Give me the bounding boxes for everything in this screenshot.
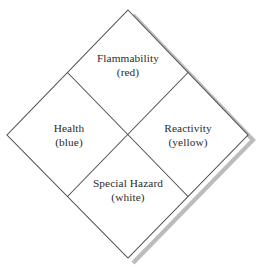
quadrant-label-flammability: Flammability (red) — [97, 52, 159, 79]
quadrant-label-health: Health (blue) — [54, 122, 85, 149]
hazard-diamond-figure: Flammability (red) Health (blue) Reactiv… — [0, 0, 262, 267]
quadrant-name-health: Health — [54, 122, 85, 136]
quadrant-name-special-hazard: Special Hazard — [93, 177, 163, 191]
hazard-diamond-graphic — [0, 0, 262, 267]
quadrant-label-reactivity: Reactivity (yellow) — [164, 122, 211, 149]
quadrant-color-health: (blue) — [54, 135, 85, 149]
quadrant-name-flammability: Flammability — [97, 52, 159, 66]
quadrant-color-reactivity: (yellow) — [164, 135, 211, 149]
quadrant-color-special-hazard: (white) — [93, 190, 163, 204]
quadrant-name-reactivity: Reactivity — [164, 122, 211, 136]
quadrant-label-special-hazard: Special Hazard (white) — [93, 177, 163, 204]
quadrant-color-flammability: (red) — [97, 65, 159, 79]
